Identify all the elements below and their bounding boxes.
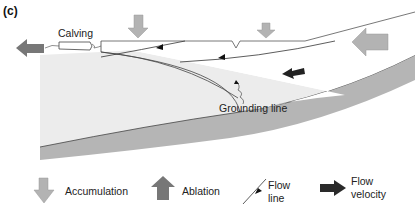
legend-flow-line-label-1: Flow (268, 180, 290, 191)
legend-flow-velocity-label-2: velocity (351, 189, 386, 200)
accumulation-arrow-icon (34, 178, 54, 203)
flow-line-icon (243, 179, 266, 204)
calving-iceberg (59, 42, 92, 50)
flow-velocity-arrow-icon (320, 180, 346, 196)
grounding-line-label: Grounding line (219, 103, 287, 114)
calving-label: Calving (58, 28, 93, 39)
accumulation-arrow-icon (257, 23, 275, 38)
legend-accumulation-label: Accumulation (65, 186, 128, 197)
legend-flow-velocity-label-1: Flow (351, 176, 373, 187)
legend-ablation-label: Ablation (182, 186, 220, 197)
accumulation-arrow-icon (128, 15, 148, 38)
legend-flow-line-label-2: line (268, 193, 284, 204)
ablation-arrow-icon (16, 39, 44, 57)
ablation-arrow-icon (151, 176, 175, 200)
